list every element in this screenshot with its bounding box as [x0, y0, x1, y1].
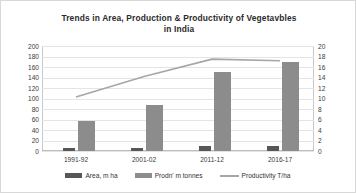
- x-axis-tick-label: 1991-92: [42, 156, 110, 163]
- y-axis-left-tick-label: 0: [13, 148, 39, 155]
- y-axis-right-tick-label: 2: [318, 137, 344, 144]
- y-axis-left-tick-label: 100: [13, 95, 39, 102]
- y-axis-right-tick-label: 0: [318, 148, 344, 155]
- x-axis-tick-label: 2001-02: [110, 156, 178, 163]
- productivity-polyline: [76, 59, 280, 97]
- y-axis-right-tick-label: 12: [318, 85, 344, 92]
- x-axis-tick-label: 2016-17: [246, 156, 314, 163]
- legend-color-swatch: [65, 173, 82, 178]
- y-axis-left-tick-label: 40: [13, 127, 39, 134]
- y-axis-right-tick-label: 16: [318, 64, 344, 71]
- y-axis-left-tick-label: 60: [13, 116, 39, 123]
- y-axis-right-tick-label: 4: [318, 127, 344, 134]
- y-axis-left-tick-label: 200: [13, 43, 39, 50]
- gridline: [42, 151, 314, 152]
- legend-item[interactable]: Productivity T/ha: [220, 172, 291, 179]
- y-axis-right-tick-label: 14: [318, 74, 344, 81]
- y-axis-left-tick-label: 120: [13, 85, 39, 92]
- y-axis-left-tick-label: 140: [13, 74, 39, 81]
- legend-label: Prodn' m tonnes: [155, 172, 203, 179]
- chart-title-line-2: in India: [164, 24, 195, 34]
- legend-item[interactable]: Area, m ha: [65, 172, 117, 179]
- y-axis-left-tick-label: 180: [13, 53, 39, 60]
- y-axis-left-tick-label: 80: [13, 106, 39, 113]
- y-axis-right-tick-label: 8: [318, 106, 344, 113]
- x-axis-tick-label: 2011-12: [178, 156, 246, 163]
- y-axis-right-tick-label: 10: [318, 95, 344, 102]
- legend-label: Productivity T/ha: [242, 172, 291, 179]
- y-axis-left-tick-label: 160: [13, 64, 39, 71]
- chart-title-line-1: Trends in Area, Production & Productivit…: [61, 13, 296, 23]
- y-axis-right-tick-label: 18: [318, 53, 344, 60]
- productivity-line-series: [42, 46, 314, 151]
- y-axis-right-tick-label: 6: [318, 116, 344, 123]
- chart-title: Trends in Area, Production & Productivit…: [29, 13, 329, 34]
- legend-line-swatch: [220, 175, 239, 177]
- chart-card: Trends in Area, Production & Productivit…: [0, 0, 356, 193]
- legend-item[interactable]: Prodn' m tonnes: [135, 172, 203, 179]
- y-axis-right-tick-label: 20: [318, 43, 344, 50]
- chart-legend: Area, m haProdn' m tonnesProductivity T/…: [1, 172, 355, 179]
- legend-color-swatch: [135, 173, 152, 178]
- plot-area: [42, 46, 314, 151]
- y-axis-left-tick-label: 20: [13, 137, 39, 144]
- legend-label: Area, m ha: [85, 172, 117, 179]
